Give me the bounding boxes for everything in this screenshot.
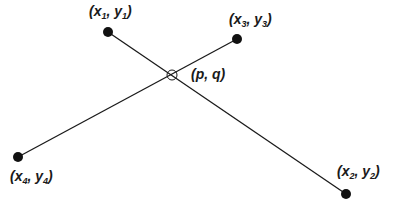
label-p4-y: y xyxy=(35,168,43,184)
label-p2-close: ) xyxy=(375,163,380,179)
label-p4-close: ) xyxy=(48,168,53,184)
segment-p1-p2 xyxy=(108,32,346,194)
label-p4: (x4, y4) xyxy=(10,169,53,186)
label-p2: (x2, y2) xyxy=(337,164,380,181)
label-p1-y: y xyxy=(114,3,122,19)
label-p3-close: ) xyxy=(267,11,272,27)
label-intersection-text: (p, q) xyxy=(191,66,225,82)
point-p4 xyxy=(13,152,23,162)
label-p1-close: ) xyxy=(127,3,132,19)
label-p1: (x1, y1) xyxy=(89,4,132,21)
label-p2-y: y xyxy=(362,163,370,179)
label-p3-y: y xyxy=(254,11,262,27)
diagram-canvas: (x1, y1) (x3, y3) (p, q) (x4, y4) (x2, y… xyxy=(0,0,395,211)
point-p2 xyxy=(341,189,351,199)
label-p3: (x3, y3) xyxy=(229,12,272,29)
point-p3 xyxy=(232,34,242,44)
diagram-svg xyxy=(0,0,395,211)
label-intersection: (p, q) xyxy=(191,67,225,81)
point-p1 xyxy=(103,27,113,37)
